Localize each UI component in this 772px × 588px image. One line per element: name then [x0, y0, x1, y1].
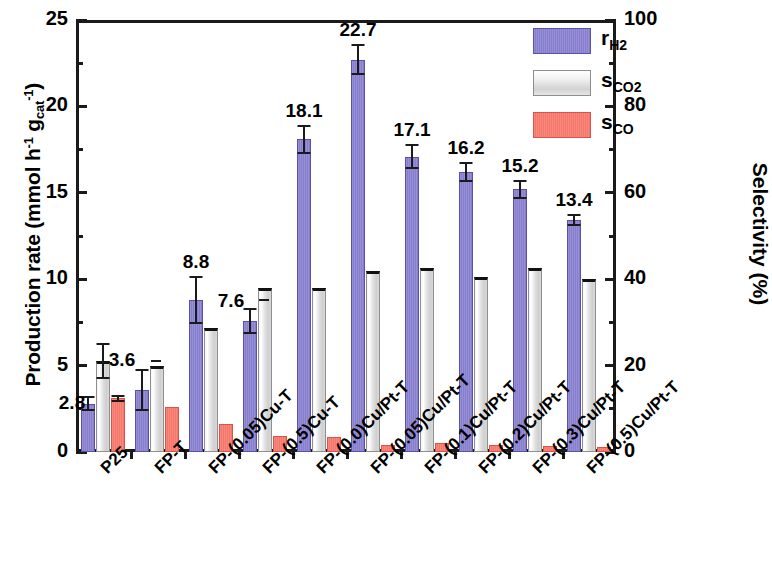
legend-label-rh2: rH2: [601, 26, 627, 53]
x-axis-tick-label: FP-(0.05)Cu/Pt-T: [367, 370, 475, 478]
x-axis-tick-label: FP-(0.2)Cu/Pt-T: [475, 377, 576, 478]
legend-item-rh2: rH2: [533, 26, 653, 59]
x-axis-tick-label: FP-(0.0)Cu/Pt-T: [313, 377, 414, 478]
legend-label-sco2: sCO2: [601, 68, 641, 95]
x-axis-tick-label: P25: [97, 443, 133, 479]
x-axis-tick-label: FP-(0.1)Cu/Pt-T: [421, 377, 522, 478]
chart-legend: rH2 sCO2 sCO: [533, 26, 653, 152]
x-axis-tick-label: FP-T: [151, 437, 192, 478]
legend-swatch-sco-icon: [533, 112, 591, 138]
legend-swatch-sco2-icon: [533, 70, 591, 96]
legend-item-sco2: sCO2: [533, 68, 653, 101]
x-axis-tick-label: FP-(0.3)Cu/Pt-T: [529, 377, 630, 478]
x-axis-tick-label: FP-(0.5)Cu/Pt-T: [583, 377, 684, 478]
legend-swatch-rh2-icon: [533, 28, 591, 54]
legend-label-sco: sCO: [601, 110, 634, 137]
legend-item-sco: sCO: [533, 110, 653, 143]
